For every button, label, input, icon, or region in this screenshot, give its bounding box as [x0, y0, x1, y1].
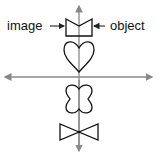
- image-label: image: [7, 19, 42, 32]
- bowtie-knot: [78, 131, 81, 134]
- object-label: object: [110, 19, 145, 32]
